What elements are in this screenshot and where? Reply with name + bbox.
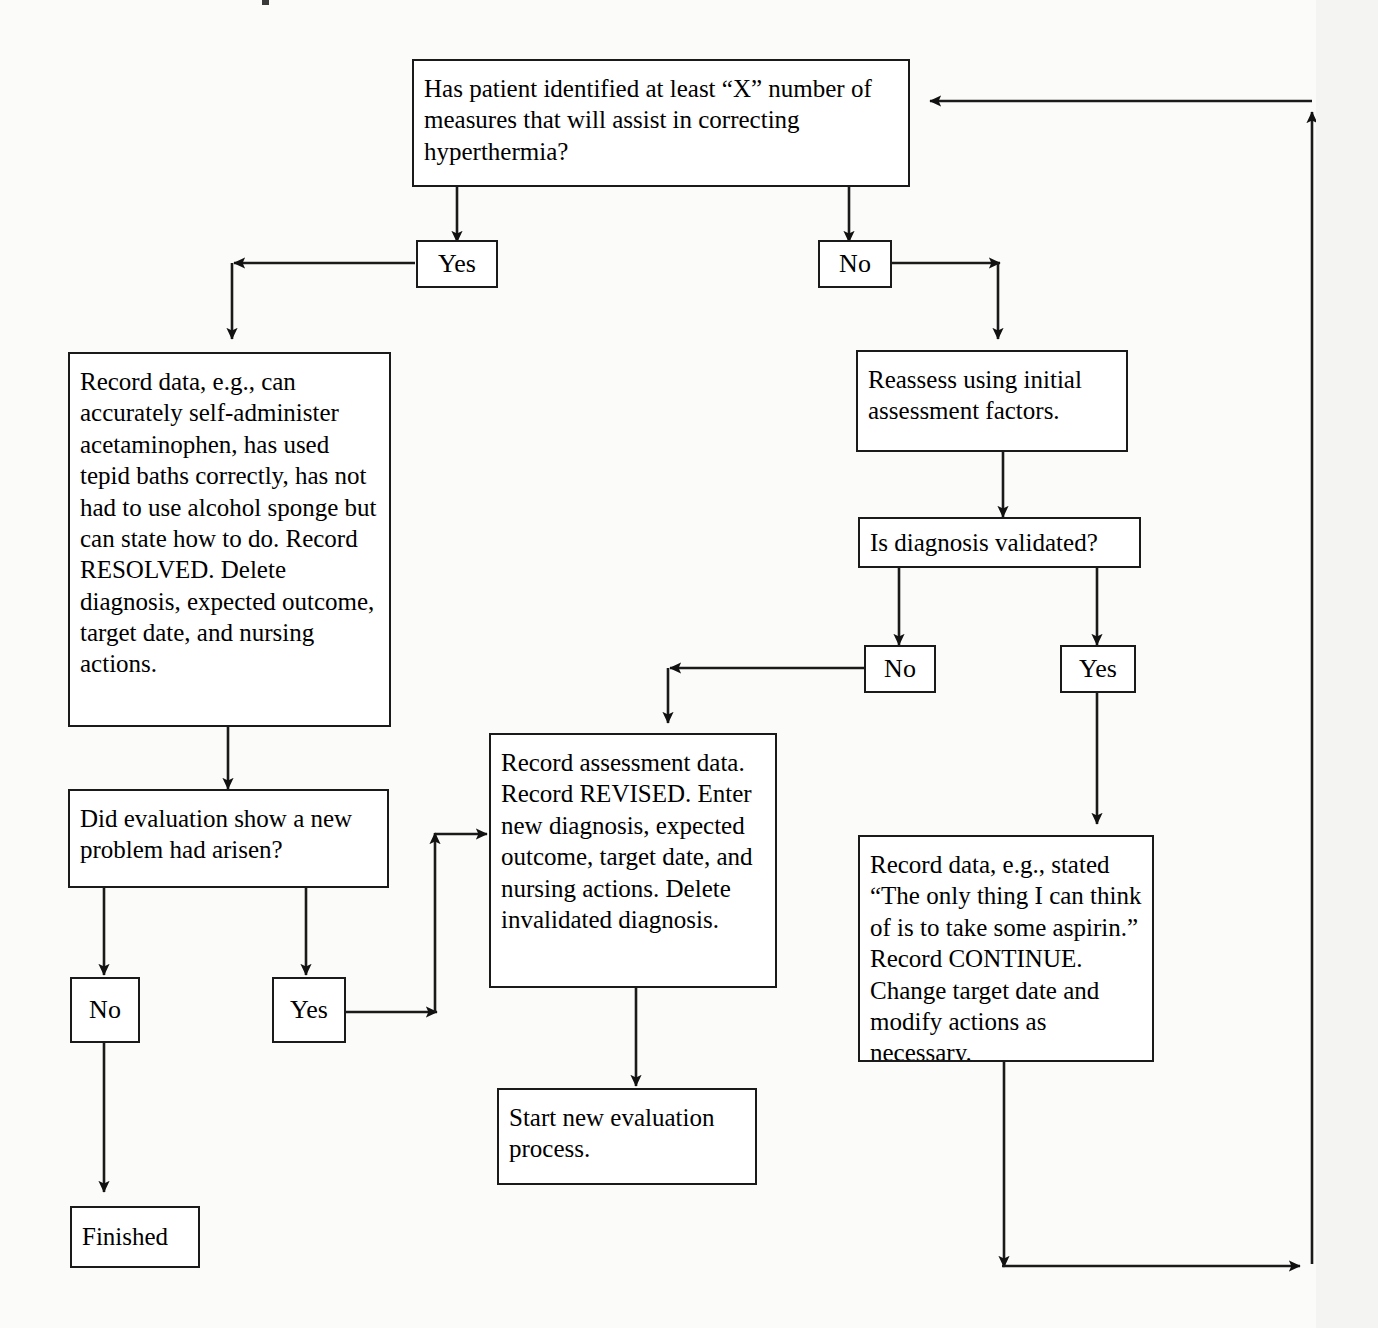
flowchart-page: Has patient identified at least “X” numb… [0,0,1378,1328]
node-record-revised-text: Record assessment data. Record REVISED. … [491,735,775,935]
node-start-new-evaluation[interactable]: Start new evaluation process. [497,1088,757,1185]
node-eval-yes-text: Yes [274,994,344,1027]
node-eval-no[interactable]: No [70,977,140,1043]
node-is-diagnosis-validated-text: Is diagnosis validated? [860,527,1139,558]
node-validated-no-text: No [866,653,934,686]
node-record-continue-text: Record data, e.g., stated “The only thin… [860,837,1152,1062]
node-reassess-text: Reassess using initial assessment factor… [858,352,1126,427]
node-root-no[interactable]: No [818,240,892,288]
node-root-question[interactable]: Has patient identified at least “X” numb… [412,59,910,187]
node-finished[interactable]: Finished [70,1206,200,1268]
node-root-yes[interactable]: Yes [416,240,498,288]
node-finished-text: Finished [72,1221,198,1252]
node-root-question-text: Has patient identified at least “X” numb… [414,61,908,167]
node-eval-yes[interactable]: Yes [272,977,346,1043]
node-validated-no[interactable]: No [864,645,936,693]
node-validated-yes[interactable]: Yes [1060,645,1136,693]
node-did-evaluation[interactable]: Did evaluation show a new problem had ar… [68,789,389,888]
node-record-revised[interactable]: Record assessment data. Record REVISED. … [489,733,777,988]
node-reassess[interactable]: Reassess using initial assessment factor… [856,350,1128,452]
node-is-diagnosis-validated[interactable]: Is diagnosis validated? [858,517,1141,568]
node-start-new-evaluation-text: Start new evaluation process. [499,1090,755,1165]
node-root-yes-text: Yes [418,248,496,281]
node-record-resolved[interactable]: Record data, e.g., can accurately self-a… [68,352,391,727]
node-did-evaluation-text: Did evaluation show a new problem had ar… [70,791,387,866]
node-validated-yes-text: Yes [1062,653,1134,686]
node-record-resolved-text: Record data, e.g., can accurately self-a… [70,354,389,680]
node-root-no-text: No [820,248,890,281]
node-eval-no-text: No [72,994,138,1027]
node-record-continue[interactable]: Record data, e.g., stated “The only thin… [858,835,1154,1062]
